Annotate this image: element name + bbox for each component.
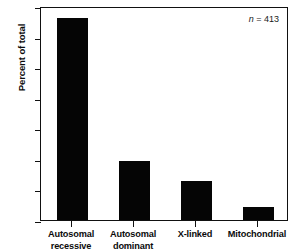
x-tick-mark <box>195 221 196 227</box>
sample-size-value: = 413 <box>254 14 279 24</box>
x-tick-label: Mitochondrial <box>209 229 296 241</box>
bar-chart-figure: Percent of total n = 413 010203040506070… <box>0 0 296 252</box>
y-tick-mark <box>35 161 41 162</box>
y-tick-mark <box>35 39 41 40</box>
y-tick-mark <box>35 222 41 223</box>
bar <box>57 18 88 220</box>
bar <box>119 161 150 220</box>
x-tick-mark <box>133 221 134 227</box>
plot-area: n = 413 010203040506070 <box>40 7 288 221</box>
y-tick-mark <box>35 191 41 192</box>
y-axis-title: Percent of total <box>16 0 27 123</box>
bar <box>181 181 212 220</box>
bar <box>243 207 274 220</box>
sample-size-annotation: n = 413 <box>249 14 279 24</box>
x-tick-mark <box>257 221 258 227</box>
y-tick-mark <box>35 100 41 101</box>
x-tick-mark <box>71 221 72 227</box>
y-tick-mark <box>35 8 41 9</box>
y-tick-mark <box>35 69 41 70</box>
y-tick-mark <box>35 130 41 131</box>
